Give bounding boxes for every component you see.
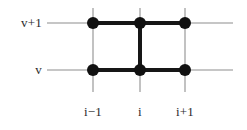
row-label-v-plus-1: v+1 bbox=[2, 16, 42, 29]
node-ip1-v bbox=[179, 64, 191, 76]
node-im1-v bbox=[87, 64, 99, 76]
lattice-diagram: v+1 v i−1 i i+1 bbox=[0, 0, 247, 130]
node-ip1-vp1 bbox=[179, 17, 191, 29]
node-i-v bbox=[134, 64, 146, 76]
column-label-i-minus-1: i−1 bbox=[73, 105, 113, 118]
node-i-vp1 bbox=[134, 17, 146, 29]
column-label-i: i bbox=[120, 105, 160, 118]
node-im1-vp1 bbox=[87, 17, 99, 29]
column-label-i-plus-1: i+1 bbox=[165, 105, 205, 118]
row-label-v: v bbox=[2, 63, 42, 76]
bold-edges bbox=[93, 23, 185, 70]
